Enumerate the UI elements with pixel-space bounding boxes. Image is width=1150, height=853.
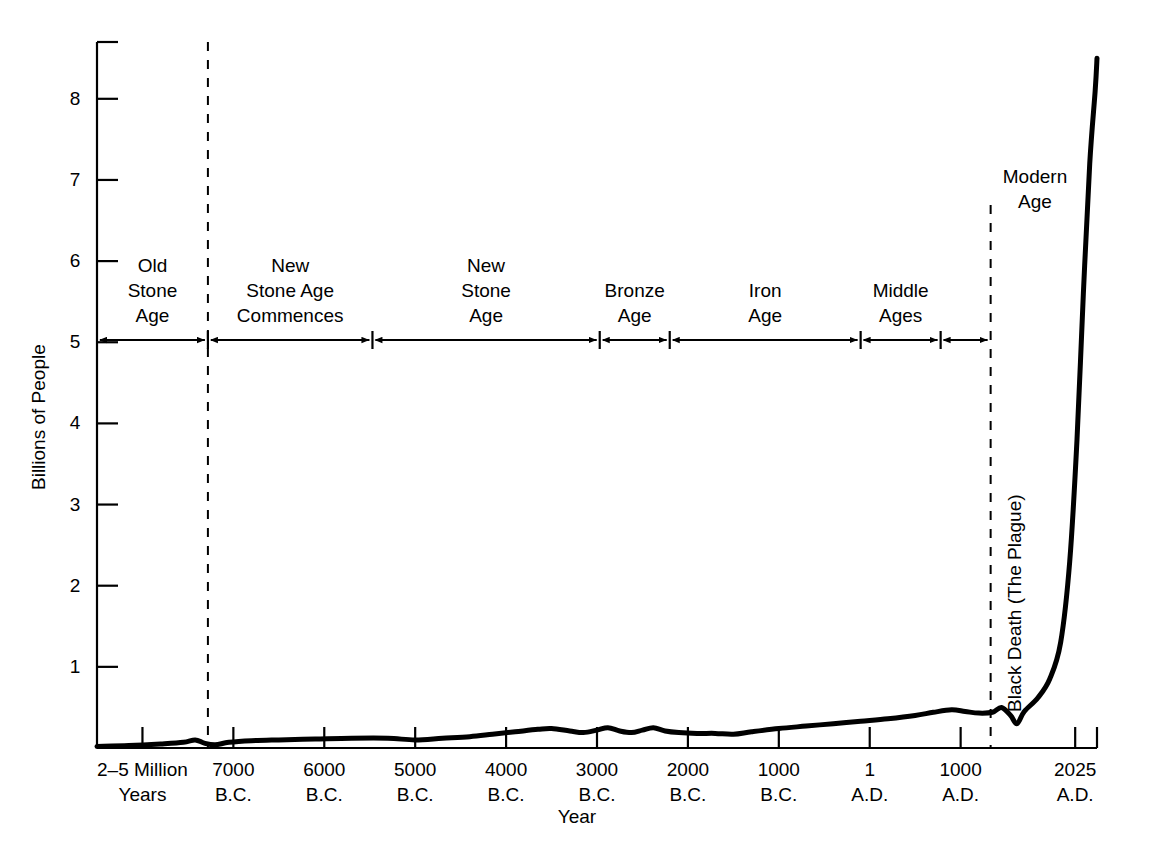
y-tick-label: 3 bbox=[63, 492, 87, 517]
y-tick-label: 1 bbox=[63, 654, 87, 679]
era-label-modern-age: Modern Age bbox=[975, 164, 1095, 214]
y-axis-title: Billions of People bbox=[28, 344, 50, 490]
x-axis-title: Year bbox=[517, 806, 637, 828]
population-curve bbox=[97, 58, 1097, 746]
era-label: New Stone Age Commences bbox=[190, 253, 390, 328]
y-tick-label: 7 bbox=[63, 167, 87, 192]
y-tick-label: 4 bbox=[63, 410, 87, 435]
x-tick-label-line2: A.D. bbox=[1005, 782, 1145, 807]
chart-canvas bbox=[0, 0, 1150, 853]
chart-axes bbox=[97, 42, 1097, 748]
y-tick-label: 8 bbox=[63, 86, 87, 111]
x-tick-label: 2025A.D. bbox=[1005, 757, 1145, 807]
era-arrow-band bbox=[100, 331, 988, 349]
black-death-annotation: Black Death (The Plague) bbox=[1004, 494, 1026, 712]
era-dashed-lines bbox=[208, 42, 991, 748]
y-tick-label: 2 bbox=[63, 573, 87, 598]
x-tick-label-line1: 2025 bbox=[1005, 757, 1145, 782]
population-growth-chart: Billions of People Year Black Death (The… bbox=[0, 0, 1150, 853]
era-label: Middle Ages bbox=[801, 278, 1001, 328]
y-tick-label: 5 bbox=[63, 329, 87, 354]
y-axis-ticks bbox=[97, 42, 118, 667]
